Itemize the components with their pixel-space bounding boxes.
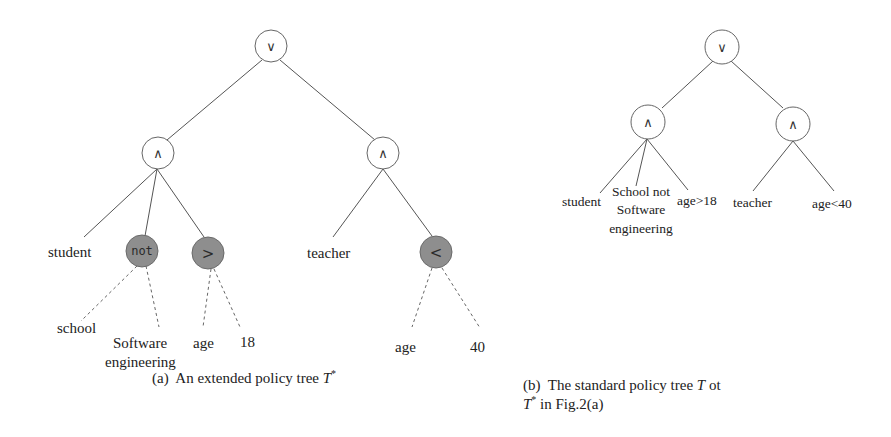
dash-lt-age [412,268,432,327]
node-not: not [126,235,158,267]
figure-b-standard-policy-tree: ∨ ∧ ∧ student School not Software engine… [523,30,852,413]
dash-not-school [81,266,137,321]
caption-b-suffix: ot [705,377,721,393]
less-than-icon: < [430,244,443,262]
caption-b-line2-suffix: in Fig.2(a) [536,396,603,413]
node-or-root-b: ∨ [705,30,739,64]
leaf-school-not-line1: School not [612,184,670,199]
leaf-age-lt-40: age<40 [812,196,852,211]
dash-lt-40 [442,268,480,328]
dash-not-software [146,266,159,327]
node-greater-than: > [192,237,224,269]
caption-b-line2: T* in Fig.2(a) [523,394,603,413]
node-and-left-a: ∧ [142,137,174,169]
leaf-school: school [57,320,96,336]
caption-b-line1: (b) The standard policy tree T ot [523,377,721,394]
node-or-root-a: ∨ [255,30,287,62]
leaf-age-right: age [395,339,416,355]
node-and-left-b: ∧ [631,105,665,139]
greater-than-icon: > [202,245,215,263]
and-icon: ∧ [378,146,388,161]
edge-and-teacher [333,169,383,237]
leaf-age-gt-18: age>18 [677,193,717,208]
edge-root-right [280,60,375,140]
and-icon: ∧ [153,146,163,161]
dash-gt-age [203,269,211,327]
and-icon: ∧ [788,117,798,132]
caption-a-sup: * [331,368,336,379]
edge-root-right-b [731,61,783,108]
or-icon: ∨ [717,40,727,55]
figure-canvas: ∨ ∧ ∧ not > < student teacher school Sof… [0,0,891,437]
node-and-right-a: ∧ [367,137,399,169]
and-icon: ∧ [643,115,653,130]
edge-root-left [167,60,262,140]
leaf-engineering: engineering [105,354,176,370]
caption-a: (a) An extended policy tree T* [152,368,336,387]
leaf-18: 18 [240,334,255,350]
not-label: not [131,244,153,258]
leaf-teacher: teacher [307,245,350,261]
dash-gt-18 [214,269,240,327]
leaf-age: age [193,335,214,351]
or-icon: ∨ [266,39,276,54]
node-and-right-b: ∧ [776,107,810,141]
edge-and-teacher-b [753,141,793,191]
leaf-student-b: student [562,194,601,209]
caption-b-prefix: (b) The standard policy tree [523,377,697,394]
figure-a-extended-policy-tree: ∨ ∧ ∧ not > < student teacher school Sof… [48,30,485,387]
leaf-40: 40 [470,339,485,355]
leaf-teacher-b: teacher [733,195,772,210]
edge-root-left-b [662,61,713,108]
leaf-student: student [48,244,92,260]
edge-and-age40-b [793,141,834,191]
edge-and-age18-b [647,139,688,190]
leaf-school-not-line3: engineering [609,221,673,236]
node-less-than: < [420,236,452,268]
edge-and-student [84,169,157,237]
caption-a-prefix: (a) An extended policy tree [152,370,323,387]
edge-and-lt [383,169,432,236]
leaf-school-not-line2: Software [617,202,666,217]
edge-and-gt [157,169,204,237]
leaf-software: Software [113,335,167,351]
